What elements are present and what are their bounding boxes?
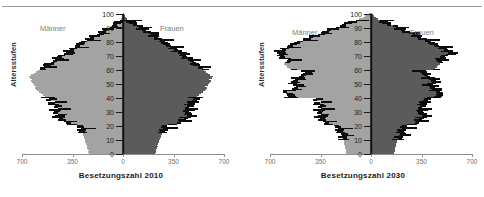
y-axis-tick-label: 0: [358, 151, 362, 158]
chart-title-2010: Besetzungszahl 2010: [0, 171, 242, 180]
bar-outline-male: [48, 102, 55, 104]
y-axis-tick-label: 80: [354, 39, 362, 46]
bar-outline-female: [425, 39, 440, 41]
y-axis-tick-label: 30: [106, 109, 114, 116]
y-axis-tick: [116, 84, 123, 85]
chart-title-2030: Besetzungszahl 2030: [242, 171, 484, 180]
y-axis-tick: [364, 56, 371, 57]
y-axis-tick-label: 50: [106, 81, 114, 88]
y-axis-tick: [364, 70, 371, 71]
y-axis-tick-label: 0: [110, 151, 114, 158]
y-axis-tick: [116, 126, 123, 127]
y-axis-tick-label: 70: [106, 53, 114, 60]
y-axis-tick-label: 60: [354, 67, 362, 74]
x-axis-tick-label: 350: [168, 158, 179, 165]
x-axis-tick: [224, 154, 225, 157]
x-axis-tick-label: 0: [121, 158, 125, 165]
y-axis-tick-label: 40: [106, 95, 114, 102]
y-axis-tick-label: 90: [354, 25, 362, 32]
x-axis-line-2010: [22, 154, 224, 155]
y-axis-tick-label: 60: [106, 67, 114, 74]
y-axis-tick-label: 100: [102, 11, 114, 18]
y-axis-label-2010: Altersstufen: [9, 30, 18, 100]
bar-outline-male: [297, 41, 303, 43]
x-axis-tick-label: 350: [416, 158, 427, 165]
x-axis-tick-label: 700: [17, 158, 28, 165]
plot-area-2030: 0102030405060708090100 7003500350700 Män…: [270, 14, 472, 154]
y-axis-tick: [116, 56, 123, 57]
plot-area-2010: 0102030405060708090100 7003500350700 Män…: [22, 14, 224, 154]
y-axis-tick: [116, 98, 123, 99]
female-group-label-2030: Frauen: [410, 28, 434, 37]
y-axis-tick-label: 80: [106, 39, 114, 46]
bar-outline-female: [439, 46, 453, 48]
bar-outline-female: [380, 20, 393, 22]
y-axis-tick: [116, 42, 123, 43]
y-axis-tick: [364, 98, 371, 99]
y-axis-tick-label: 50: [354, 81, 362, 88]
y-axis-tick: [364, 154, 371, 155]
y-axis-tick: [116, 28, 123, 29]
y-axis-tick: [364, 14, 371, 15]
x-axis-tick-label: 350: [67, 158, 78, 165]
y-axis-tick-label: 40: [354, 95, 362, 102]
male-group-label-2030: Männer: [292, 28, 317, 37]
bar-outline-male: [314, 102, 321, 104]
y-axis-tick-label: 30: [354, 109, 362, 116]
x-axis-tick-label: 700: [467, 158, 478, 165]
y-axis-label-2030: Altersstufen: [257, 30, 266, 100]
y-axis-tick: [116, 70, 123, 71]
y-axis-tick-label: 20: [354, 123, 362, 130]
x-axis-tick-label: 700: [219, 158, 230, 165]
bar-outline-female: [393, 25, 398, 27]
y-axis-tick-label: 70: [354, 53, 362, 60]
y-axis-tick-label: 10: [354, 137, 362, 144]
x-axis-line-2030: [270, 154, 472, 155]
y-axis-tick: [364, 112, 371, 113]
y-axis-tick: [116, 112, 123, 113]
y-axis-tick-label: 10: [106, 137, 114, 144]
bar-outline-female: [137, 25, 142, 27]
y-axis-tick: [116, 14, 123, 15]
male-group-label-2010: Männer: [40, 24, 65, 33]
y-axis-tick: [364, 84, 371, 85]
bar-outline-female: [170, 46, 184, 48]
x-axis-tick-label: 350: [315, 158, 326, 165]
x-axis-tick: [472, 154, 473, 157]
y-axis-tick: [364, 28, 371, 29]
y-axis-tick: [364, 126, 371, 127]
population-pyramid-2030: Altersstufen 0102030405060708090100 7003…: [242, 0, 484, 197]
female-group-label-2010: Frauen: [160, 24, 184, 33]
x-axis-tick-label: 0: [369, 158, 373, 165]
y-axis-tick-label: 90: [106, 25, 114, 32]
y-axis-tick: [116, 140, 123, 141]
bar-outline-female: [129, 20, 142, 22]
y-axis-tick-label: 20: [106, 123, 114, 130]
x-axis-tick-label: 700: [265, 158, 276, 165]
y-axis-tick: [364, 140, 371, 141]
population-pyramid-2010: Altersstufen 0102030405060708090100 7003…: [0, 0, 242, 197]
y-axis-tick-label: 100: [350, 11, 362, 18]
y-axis-tick: [116, 154, 123, 155]
y-axis-tick: [364, 42, 371, 43]
